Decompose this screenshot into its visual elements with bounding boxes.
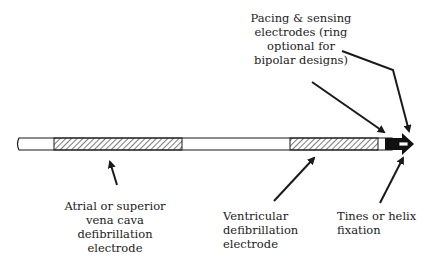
atrial-arrow [110, 162, 117, 185]
ring-electrode [385, 138, 394, 150]
atrial-defibrillation-coil [54, 138, 182, 150]
tip-electrode-slot [399, 142, 408, 146]
lead-body [18, 133, 415, 155]
fixation-label: Tines or helix fixation [337, 209, 429, 237]
ventricular-arrow [274, 158, 314, 201]
ventricular-electrode-label: Ventricular defibrillation electrode [223, 209, 313, 251]
fixation-arrow [380, 158, 403, 203]
atrial-electrode-label: Atrial or superior vena cava defibrillat… [60, 199, 170, 255]
pacing-ring-arrow [312, 82, 384, 132]
pacing-electrodes-label: Pacing & sensing electrodes (ring option… [246, 11, 356, 67]
ventricular-defibrillation-coil [290, 138, 378, 150]
